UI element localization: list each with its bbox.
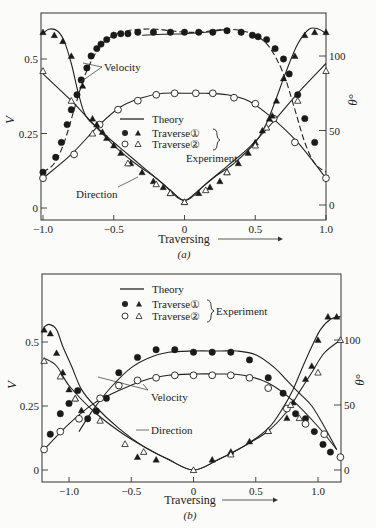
data-point-open-circle bbox=[323, 175, 330, 182]
series-line-direction-theory-t1 bbox=[43, 28, 326, 201]
data-point-open-triangle bbox=[122, 441, 128, 447]
data-point-filled-circle bbox=[255, 34, 261, 40]
data-point-filled-triangle bbox=[284, 415, 290, 421]
y-tick-label-right: 100 bbox=[329, 50, 346, 62]
data-point-filled-triangle bbox=[60, 38, 66, 44]
data-point-filled-triangle bbox=[53, 350, 59, 356]
data-point-filled-circle bbox=[286, 71, 292, 77]
data-point-filled-circle bbox=[320, 441, 326, 447]
data-point-open-triangle bbox=[323, 68, 329, 74]
data-point-filled-circle bbox=[84, 65, 90, 71]
legend-brace bbox=[213, 129, 220, 150]
data-point-filled-triangle bbox=[217, 178, 223, 184]
legend-experiment-label: Experiment bbox=[186, 152, 237, 164]
y-tick-label-left: 0 bbox=[33, 202, 39, 214]
data-point-filled-triangle bbox=[207, 184, 213, 190]
data-point-filled-triangle bbox=[79, 83, 85, 89]
legend-t1-circle bbox=[122, 301, 128, 307]
y-tick-label-right: 0 bbox=[329, 199, 335, 211]
data-point-filled-circle bbox=[292, 411, 298, 417]
data-point-filled-circle bbox=[74, 92, 80, 98]
x-tick-label: 0.5 bbox=[249, 485, 263, 497]
data-point-filled-circle bbox=[238, 29, 244, 35]
data-point-open-circle bbox=[321, 431, 328, 438]
y-tick-label-left: 0.5 bbox=[24, 53, 38, 65]
data-point-open-circle bbox=[71, 151, 78, 158]
data-point-filled-triangle bbox=[302, 32, 308, 38]
data-point-filled-circle bbox=[280, 390, 286, 396]
data-point-open-circle bbox=[76, 415, 83, 422]
y-tick-label-right: 50 bbox=[329, 125, 341, 137]
legend-t2-triangle bbox=[136, 313, 142, 319]
x-tick-label: −1.0 bbox=[59, 485, 79, 497]
data-point-filled-circle bbox=[246, 357, 252, 363]
data-point-filled-circle bbox=[53, 154, 59, 160]
data-point-open-triangle bbox=[72, 395, 78, 401]
data-point-filled-triangle bbox=[280, 75, 286, 81]
data-point-open-circle bbox=[40, 175, 47, 182]
data-point-open-circle bbox=[265, 385, 272, 392]
figure: −1.0−0.500.51.000.250.5050100 V θ° Trave… bbox=[0, 0, 376, 528]
data-point-open-circle bbox=[246, 374, 253, 381]
data-point-filled-circle bbox=[327, 449, 333, 455]
data-point-open-circle bbox=[209, 90, 216, 97]
data-point-open-triangle bbox=[89, 130, 95, 136]
data-point-open-triangle bbox=[141, 449, 147, 455]
panel-b-marks bbox=[41, 313, 344, 472]
data-point-open-circle bbox=[97, 395, 104, 402]
x-tick-label: −0.5 bbox=[104, 223, 124, 235]
y-axis-label-right-b: θ° bbox=[352, 374, 367, 386]
legend-t1-triangle bbox=[136, 301, 142, 307]
data-point-filled-circle bbox=[312, 139, 318, 145]
data-point-filled-circle bbox=[209, 349, 215, 355]
panel-a-marks bbox=[40, 28, 330, 205]
y-tick-label-right: 100 bbox=[344, 334, 361, 346]
data-point-open-circle bbox=[153, 91, 160, 98]
series-line-velocity-theory-t1 bbox=[43, 29, 326, 172]
legend-t2-label: Traverse② bbox=[152, 310, 200, 322]
x-axis-label-a: Traversing bbox=[158, 232, 210, 246]
svg-text:Velocity: Velocity bbox=[104, 61, 141, 73]
legend-t1-triangle bbox=[135, 130, 141, 136]
data-point-filled-circle bbox=[116, 370, 122, 376]
x-tick-label: 1.0 bbox=[319, 223, 333, 235]
data-point-filled-circle bbox=[88, 53, 94, 59]
data-point-open-circle bbox=[209, 372, 216, 379]
data-point-filled-circle bbox=[85, 416, 91, 422]
x-tick-label: 1.0 bbox=[311, 485, 325, 497]
y-axis-label-left-b: V bbox=[4, 379, 19, 389]
data-point-filled-circle bbox=[134, 354, 140, 360]
x-axis-label-b: Traversing bbox=[164, 493, 216, 507]
annotation-direction-b: Direction bbox=[136, 424, 193, 436]
data-point-filled-circle bbox=[265, 375, 271, 381]
y-axis-label-right-a: θ° bbox=[345, 94, 360, 106]
data-point-open-circle bbox=[115, 106, 122, 113]
data-point-filled-triangle bbox=[134, 454, 140, 460]
data-point-filled-circle bbox=[172, 347, 178, 353]
svg-text:Velocity: Velocity bbox=[151, 391, 188, 403]
data-point-filled-triangle bbox=[153, 456, 159, 462]
x-tick-label: 0.5 bbox=[248, 223, 262, 235]
legend-theory-label: Theory bbox=[152, 283, 184, 295]
data-point-filled-triangle bbox=[209, 456, 215, 462]
annotation-velocity-a: Velocity bbox=[79, 61, 141, 83]
y-tick-label-left: 0 bbox=[34, 464, 40, 476]
data-point-open-circle bbox=[292, 139, 299, 146]
data-point-filled-triangle bbox=[309, 363, 315, 369]
data-point-filled-circle bbox=[272, 45, 278, 51]
data-point-filled-circle bbox=[302, 115, 308, 121]
legend-brace bbox=[207, 300, 214, 322]
data-point-filled-circle bbox=[150, 29, 156, 35]
data-point-filled-circle bbox=[153, 347, 159, 353]
data-point-filled-circle bbox=[66, 400, 72, 406]
x-tick-label: −0.5 bbox=[121, 485, 141, 497]
data-point-filled-triangle bbox=[273, 98, 279, 104]
data-point-open-circle bbox=[252, 100, 259, 107]
legend-a: Theory Traverse① Traverse② Experiment bbox=[120, 113, 237, 164]
data-point-open-circle bbox=[134, 97, 141, 104]
y-axis-label-left-a: V bbox=[2, 114, 17, 124]
caption-a: (a) bbox=[178, 248, 191, 261]
series-line-velocity-theory-t1 bbox=[79, 351, 337, 450]
data-point-filled-circle bbox=[280, 56, 286, 62]
data-point-open-circle bbox=[171, 90, 178, 97]
